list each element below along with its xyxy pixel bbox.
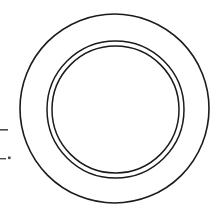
outer-rim-circle bbox=[20, 14, 209, 203]
left-edge-dash-lower bbox=[0, 158, 6, 159]
plate-line-drawing bbox=[0, 0, 218, 219]
drawing-canvas bbox=[0, 0, 218, 219]
inner-well-circle-inner bbox=[52, 46, 179, 173]
inner-well-circle-outer bbox=[47, 41, 184, 178]
left-edge-dot bbox=[8, 157, 11, 160]
left-edge-dash-upper bbox=[0, 129, 8, 131]
